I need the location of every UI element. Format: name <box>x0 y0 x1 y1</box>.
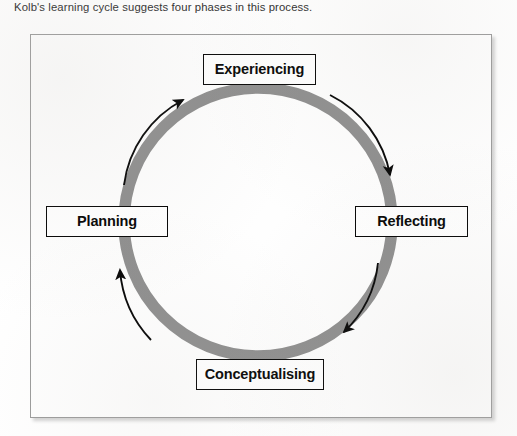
cycle-node-label: Experiencing <box>215 62 304 77</box>
cycle-node-reflecting[interactable]: Reflecting <box>355 206 468 237</box>
cycle-node-experiencing[interactable]: Experiencing <box>203 54 316 85</box>
cycle-node-label: Conceptualising <box>205 367 316 382</box>
cycle-node-label: Planning <box>77 214 137 229</box>
cycle-node-label: Reflecting <box>377 214 446 229</box>
cycle-node-planning[interactable]: Planning <box>46 206 168 237</box>
cycle-node-conceptualising[interactable]: Conceptualising <box>196 359 324 390</box>
